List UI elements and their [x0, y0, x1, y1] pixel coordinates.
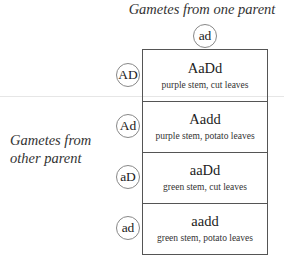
row-gamete-circle: aD: [116, 165, 140, 189]
genotype: aaDd: [190, 162, 221, 179]
phenotype: purple stem, potato leaves: [155, 130, 254, 143]
row-gamete-circle: Ad: [116, 114, 140, 138]
phenotype: green stem, cut leaves: [163, 181, 247, 194]
grid-cell: Aadd purple stem, potato leaves: [143, 101, 267, 152]
side-parent-label: Gametes from other parent: [10, 131, 91, 167]
phenotype: purple stem, cut leaves: [161, 79, 248, 92]
genotype: aadd: [191, 213, 218, 230]
row-gamete-circle: ad: [116, 216, 140, 240]
top-gamete-circle: ad: [193, 24, 217, 48]
side-parent-label-line1: Gametes from: [10, 131, 91, 149]
grid-cell: AaDd purple stem, cut leaves: [143, 50, 267, 101]
grid-cell: aaDd green stem, cut leaves: [143, 152, 267, 203]
punnett-grid: AaDd purple stem, cut leaves Aadd purple…: [142, 49, 268, 255]
top-parent-label: Gametes from one parent: [120, 1, 284, 18]
side-parent-label-line2: other parent: [10, 149, 91, 167]
phenotype: green stem, potato leaves: [157, 232, 253, 245]
genotype: AaDd: [188, 60, 223, 77]
genotype: Aadd: [189, 111, 220, 128]
row-gamete-circle: AD: [116, 63, 140, 87]
grid-cell: aadd green stem, potato leaves: [143, 203, 267, 254]
